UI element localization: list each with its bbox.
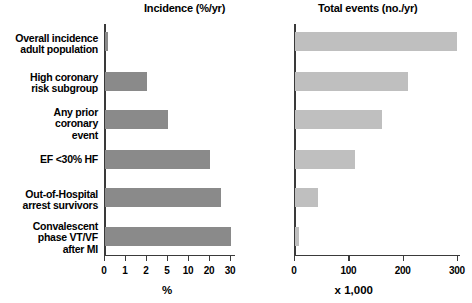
bar	[295, 227, 299, 246]
left-chart-plot-area: 0125102030%	[104, 24, 234, 256]
left-chart-title: Incidence (%/yr)	[144, 2, 225, 14]
category-label: Any priorcoronaryevent	[0, 107, 98, 142]
right-axis-baseline	[294, 255, 460, 256]
bar	[295, 72, 408, 91]
left-axis-baseline	[104, 255, 235, 256]
axis-tick	[188, 256, 189, 261]
axis-tick	[167, 256, 168, 261]
category-label: EF <30% HF	[0, 154, 98, 166]
axis-tick-label: 0	[291, 265, 296, 276]
axis-tick-label: 2	[143, 265, 148, 276]
bar	[105, 110, 168, 129]
bar	[295, 32, 457, 51]
axis-tick	[146, 256, 147, 261]
right-chart-title: Total events (no./yr)	[318, 2, 418, 14]
category-label: Convalescentphase VT/VFafter MI	[0, 221, 98, 256]
axis-tick-label: 200	[395, 265, 411, 276]
category-label: High coronaryrisk subgroup	[0, 72, 98, 95]
axis-tick	[209, 256, 210, 261]
axis-tick	[294, 256, 295, 261]
bar	[105, 72, 147, 91]
axis-tick-label: 5	[164, 265, 169, 276]
right-value-axis	[294, 24, 296, 256]
axis-tick	[125, 256, 126, 261]
bar	[105, 227, 231, 246]
bar	[295, 188, 318, 207]
axis-tick-label: 30	[225, 265, 236, 276]
category-label: Out-of-Hospitalarrest survivors	[0, 189, 98, 212]
right-chart-plot-area: 0100200300x 1,000	[294, 24, 460, 256]
category-label-line: EF <30% HF	[0, 154, 98, 166]
bar	[105, 32, 108, 51]
category-label-line: arrest survivors	[0, 200, 98, 212]
axis-tick	[403, 256, 404, 261]
left-axis-caption: %	[162, 284, 172, 296]
left-value-axis	[104, 24, 106, 256]
category-axis-labels: Overall incidenceadult populationHigh co…	[0, 24, 101, 256]
axis-tick-label: 0	[101, 265, 106, 276]
category-label-line: after MI	[0, 244, 98, 256]
category-label-line: risk subgroup	[0, 83, 98, 95]
axis-tick	[104, 256, 105, 261]
axis-tick-label: 20	[204, 265, 215, 276]
chart-figure: Incidence (%/yr) Total events (no./yr) O…	[0, 0, 472, 303]
category-label: Overall incidenceadult population	[0, 33, 98, 56]
axis-tick-label: 300	[449, 265, 465, 276]
bar	[105, 188, 221, 207]
axis-tick	[230, 256, 231, 261]
category-label-line: adult population	[0, 44, 98, 56]
bar	[295, 150, 355, 169]
axis-tick-label: 10	[183, 265, 194, 276]
axis-tick	[457, 256, 458, 261]
axis-tick-label: 100	[340, 265, 356, 276]
bar	[295, 110, 382, 129]
axis-tick-label: 1	[122, 265, 127, 276]
axis-tick	[348, 256, 349, 261]
right-axis-caption: x 1,000	[335, 284, 373, 296]
category-label-line: event	[0, 130, 98, 142]
bar	[105, 150, 210, 169]
